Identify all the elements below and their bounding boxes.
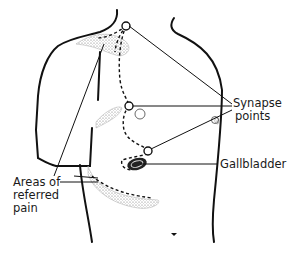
torso-outline xyxy=(36,10,222,242)
navel-mark xyxy=(171,233,177,236)
referred-pain-label: Areas of referred pain xyxy=(13,176,60,215)
gallbladder-label: Gallbladder xyxy=(220,158,286,171)
synapse-points-label: Synapse points xyxy=(233,97,282,123)
small-circle-marks xyxy=(135,109,219,124)
referred-pain-diagram xyxy=(0,0,288,256)
synapse-label-line2: points xyxy=(233,110,282,123)
areas-label-line3: pain xyxy=(13,202,60,215)
